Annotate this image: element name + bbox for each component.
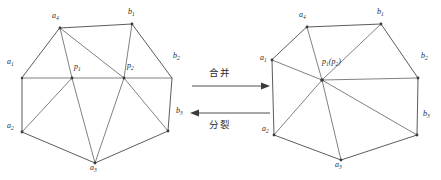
left-label-b3: b3 xyxy=(176,107,183,115)
left-edge-a4-p2 xyxy=(60,28,124,78)
left-label-p2: p2 xyxy=(127,62,134,70)
right-label-a2: a2 xyxy=(262,125,269,133)
right-vertex-b2-corner xyxy=(417,77,420,80)
right-label-a1: a1 xyxy=(260,54,267,62)
right-edge-center-a3 xyxy=(322,80,341,160)
left-label-a2: a2 xyxy=(7,122,14,130)
right-edge-center-b2 xyxy=(322,78,418,80)
right-vertex-b1 xyxy=(380,23,383,26)
left-vertex-b1 xyxy=(131,23,134,26)
merge-operation-label: 合并 xyxy=(209,68,231,78)
right-edge-center-b3 xyxy=(322,80,417,135)
merge-arrow-group xyxy=(192,83,270,90)
right-vertex-a4 xyxy=(306,26,309,29)
left-label-b1: b1 xyxy=(128,8,135,16)
diagram-canvas xyxy=(0,0,441,180)
right-label-a3: a3 xyxy=(335,161,342,169)
left-vertex-a4 xyxy=(59,27,62,30)
left-label-a3: a3 xyxy=(90,164,97,172)
left-mesh-group xyxy=(21,23,172,165)
right-mesh-group xyxy=(271,23,420,162)
left-vertex-a1 xyxy=(21,77,23,79)
left-label-a4: a4 xyxy=(52,12,59,20)
left-edge-p2-a3 xyxy=(95,78,124,163)
right-vertex-a2 xyxy=(273,134,276,137)
right-edge-center-a1 xyxy=(272,60,322,80)
right-label-a4: a4 xyxy=(299,11,306,19)
left-vertex-p2 xyxy=(123,77,126,80)
right-label-b1: b1 xyxy=(377,8,384,16)
split-arrow-head xyxy=(190,110,199,117)
left-label-a1: a1 xyxy=(7,58,14,66)
left-edge-p1-a2 xyxy=(22,78,72,132)
split-operation-label: 分裂 xyxy=(209,120,231,130)
left-vertex-p1 xyxy=(71,77,74,80)
left-edge-p2-b3 xyxy=(124,78,168,131)
split-arrow-group xyxy=(190,110,270,117)
left-vertex-a2 xyxy=(21,131,24,134)
left-mesh-boundary xyxy=(22,24,172,163)
merge-arrow-head xyxy=(261,83,270,90)
left-vertex-b3-corner xyxy=(167,130,170,133)
right-vertex-a1 xyxy=(271,59,274,62)
right-edge-center-b1 xyxy=(322,24,381,80)
right-label-b3: b3 xyxy=(423,110,430,118)
right-vertex-b3-corner xyxy=(416,134,419,137)
left-label-b2: b2 xyxy=(173,52,180,60)
right-label-b2: b2 xyxy=(421,52,428,60)
right-vertex-p-merged xyxy=(320,78,324,82)
left-label-p1: p1 xyxy=(74,63,81,71)
right-edge-center-a4 xyxy=(307,27,322,80)
right-mesh-boundary xyxy=(272,24,418,160)
right-edge-center-a2 xyxy=(274,80,322,135)
left-edge-a4-p1 xyxy=(60,28,72,78)
right-label-p-merged: p1(p2) xyxy=(322,58,341,66)
figure-root: a4 b1 a1 b2 a2 b3 a3 p1 p2 合并 分裂 a4 b1 a… xyxy=(0,0,441,180)
left-edge-p1-a3 xyxy=(72,78,95,163)
